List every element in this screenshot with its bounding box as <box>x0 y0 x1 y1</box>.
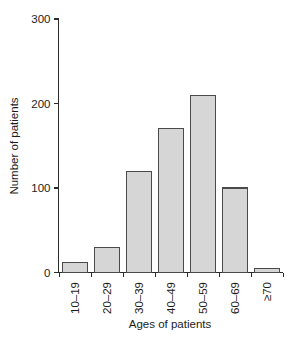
x-tick-label: 30–39 <box>133 282 145 314</box>
chart-svg: 0100200300 10–1920–2930–3940–4950–5960–6… <box>0 0 297 341</box>
x-tick-label: 60–69 <box>229 282 241 314</box>
x-tick-label: 10–19 <box>69 282 81 314</box>
y-tick-label: 300 <box>31 13 50 25</box>
y-axis-title: Number of patients <box>8 97 20 194</box>
bar <box>191 95 216 272</box>
bar <box>127 171 152 272</box>
x-tick-label: 20–29 <box>101 282 113 314</box>
y-tick-label: 100 <box>31 182 50 194</box>
bar <box>95 247 120 272</box>
bar <box>159 129 184 273</box>
bar <box>255 268 280 272</box>
bar <box>63 262 88 272</box>
chart-background <box>0 0 297 341</box>
x-tick-label: 50–59 <box>197 282 209 314</box>
bar <box>223 188 248 273</box>
x-tick-label: 40–49 <box>165 282 177 314</box>
bar-chart-figure: 0100200300 10–1920–2930–3940–4950–5960–6… <box>0 0 297 341</box>
x-axis-title: Ages of patients <box>129 318 212 330</box>
y-tick-label: 200 <box>31 98 50 110</box>
x-tick-label: ≥70 <box>261 282 273 301</box>
y-tick-label: 0 <box>44 267 50 279</box>
